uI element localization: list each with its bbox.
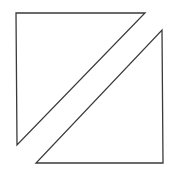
diagram-canvas xyxy=(0,0,180,174)
diagram-svg xyxy=(0,0,180,174)
upper-left-triangle xyxy=(16,13,145,145)
lower-right-triangle xyxy=(36,30,163,163)
